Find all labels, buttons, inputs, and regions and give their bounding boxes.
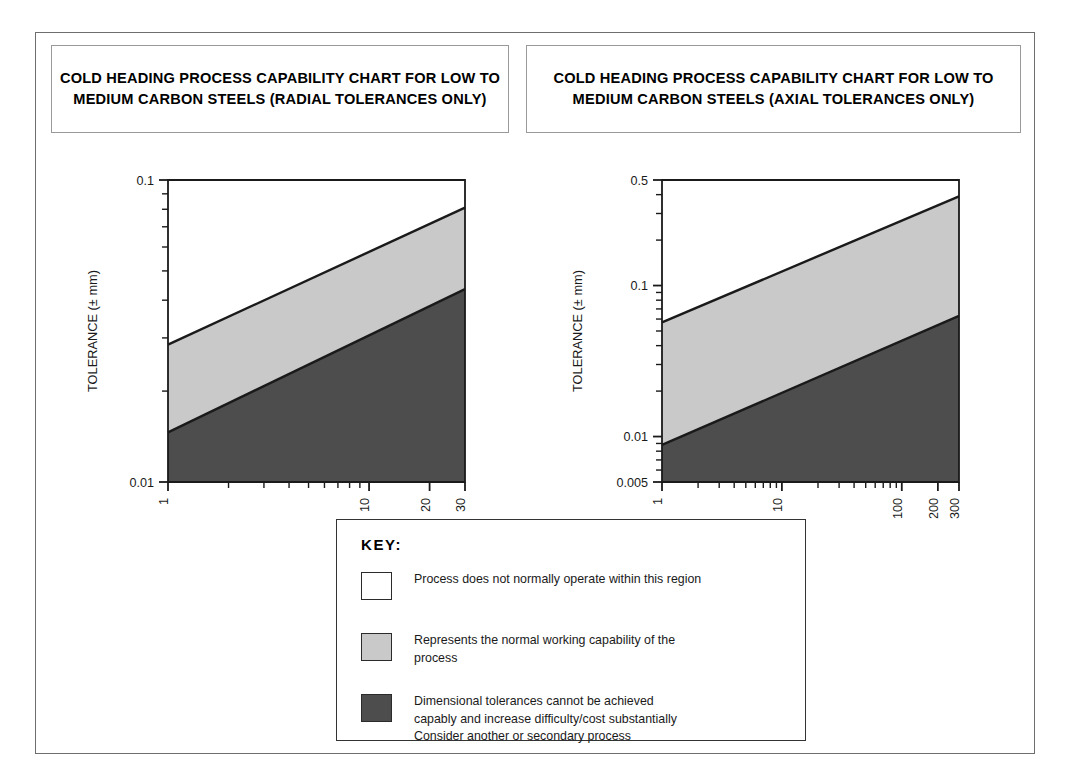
legend-title: KEY:: [361, 536, 402, 553]
legend-item-dark-gray: Dimensional tolerances cannot be achieve…: [361, 693, 677, 746]
x-tick-label: 30: [454, 498, 468, 512]
y-tick-label: 0.01: [129, 476, 154, 490]
y-tick-label: 0.1: [630, 279, 648, 293]
x-tick-label: 20: [419, 498, 433, 512]
legend-label-dark-gray: Dimensional tolerances cannot be achieve…: [414, 693, 677, 746]
y-axis-label: TOLERANCE (± mm): [85, 270, 100, 392]
figure-outer-frame: COLD HEADING PROCESS CAPABILITY CHART FO…: [35, 32, 1035, 754]
chart-radial-svg: 0.010.11102030DIAMETER (mm)TOLERANCE (± …: [51, 137, 509, 537]
x-tick-label: 10: [771, 498, 785, 512]
x-tick-label: 1: [651, 498, 665, 505]
chart-axial-tolerances: 0.0050.010.10.5110100200300DIMENSION (mm…: [526, 137, 1021, 537]
y-tick-label: 0.5: [630, 174, 648, 188]
x-tick-label: 1: [157, 498, 171, 505]
y-axis-label: TOLERANCE (± mm): [570, 270, 585, 392]
y-tick-label: 0.1: [136, 174, 154, 188]
legend-item-white: Process does not normally operate within…: [361, 571, 701, 600]
chart-axial-svg: 0.0050.010.10.5110100200300DIMENSION (mm…: [526, 137, 1021, 537]
chart-radial-tolerances: 0.010.11102030DIAMETER (mm)TOLERANCE (± …: [51, 137, 509, 537]
x-tick-label: 100: [891, 498, 905, 519]
legend-key-box: KEY: Process does not normally operate w…: [336, 519, 806, 741]
chart-title-radial: COLD HEADING PROCESS CAPABILITY CHART FO…: [51, 45, 509, 133]
legend-item-light-gray: Represents the normal working capability…: [361, 632, 675, 667]
chart-title-axial: COLD HEADING PROCESS CAPABILITY CHART FO…: [526, 45, 1021, 133]
y-tick-label: 0.005: [616, 476, 648, 490]
legend-label-white: Process does not normally operate within…: [414, 571, 701, 589]
x-tick-label: 200: [927, 498, 941, 519]
legend-swatch-light-gray-icon: [361, 633, 392, 661]
legend-swatch-dark-gray-icon: [361, 694, 392, 722]
legend-swatch-white-icon: [361, 572, 392, 600]
x-tick-label: 10: [358, 498, 372, 512]
legend-label-light-gray: Represents the normal working capability…: [414, 632, 675, 667]
x-tick-label: 300: [948, 498, 962, 519]
y-tick-label: 0.01: [623, 430, 648, 444]
